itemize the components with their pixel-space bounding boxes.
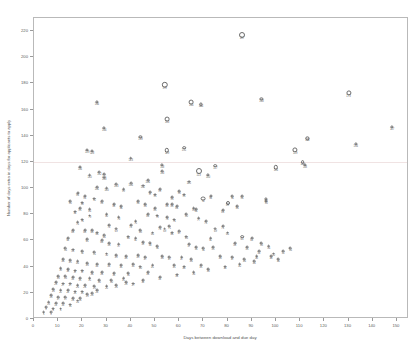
y-axis-tick [30,161,33,162]
x-axis-tick [154,318,155,321]
data-point-label: 72 [129,227,132,230]
x-axis-tick-label: 70 [200,323,205,328]
data-point-label: 8 [53,310,54,313]
data-point-label: 40 [224,268,227,271]
x-axis-tick [81,318,82,321]
data-point-label: 31 [79,280,82,283]
x-axis-tick-label: 100 [271,323,278,328]
data-point-label: 42 [108,266,111,269]
data-point-label: 26 [83,287,86,290]
data-point-label: 62 [134,240,137,243]
data-point-label: 40 [183,268,186,271]
data-point-label: 31 [88,280,91,283]
data-point-label: 94 [209,198,212,201]
data-point-label: 78 [117,219,120,222]
data-point-label: 48 [161,258,164,261]
y-axis-tick-label: 20 [23,289,28,294]
data-point-label: 58 [233,245,236,248]
data-point-label: 90 [69,203,72,206]
data-point-label: 66 [170,234,173,237]
data-point-label: 97 [149,194,152,197]
data-point-label: 99 [122,191,125,194]
x-axis-tick [275,318,276,321]
x-axis-tick [396,318,397,321]
data-point-label: 71 [168,228,171,231]
data-point-label: 66 [95,234,98,237]
data-point-label: 22 [66,292,69,295]
data-point-label: 138 [305,140,309,143]
data-point-label: 88 [170,206,173,209]
data-point-label: 36 [91,274,94,277]
data-point-label: 69 [115,231,118,234]
data-point-label: 96 [76,195,79,198]
data-point-label: 66 [226,234,229,237]
data-point-label: 68 [91,232,94,235]
data-point-label: 168 [259,101,263,104]
data-point-label: 33 [64,278,67,281]
data-point-label: 55 [245,249,248,252]
data-point-label: 166 [95,104,99,107]
data-point-label: 19 [86,296,89,299]
data-point-label: 93 [170,199,173,202]
data-point-label: 110 [206,177,210,180]
data-point-label: 14 [76,302,79,305]
y-axis-tick-label: 200 [21,54,28,59]
data-point-label: 79 [156,217,159,220]
data-point-label: 32 [158,279,161,282]
data-point-label: 8 [60,310,61,313]
x-axis-tick-label: 80 [224,323,229,328]
data-point-label: 100 [104,190,108,193]
data-point-label: 68 [71,232,74,235]
data-point-label: 57 [117,246,120,249]
data-point-label: 61 [86,241,89,244]
data-point-label: 17 [57,299,60,302]
data-point-label: 58 [149,245,152,248]
data-point-label: 179 [162,88,166,91]
data-point-label: 129 [85,152,89,155]
y-axis-tick [30,318,33,319]
data-point-label: 116 [78,169,82,172]
data-point-label: 134 [354,146,358,149]
data-point-label: 62 [66,240,69,243]
data-point-label: 5 [50,314,51,317]
data-point-label: 41 [199,267,202,270]
y-axis-tick [30,30,33,31]
data-point-label: 46 [62,261,65,264]
data-point-label: 153 [165,122,169,125]
data-point-label: 86 [175,208,178,211]
x-axis-tick-label: 140 [368,323,375,328]
y-axis-tick-label: 160 [21,106,28,111]
y-axis-tick [30,135,33,136]
y-axis-tick-label: 140 [21,132,28,137]
x-axis-tick-label: 150 [392,323,399,328]
y-axis-tick [30,239,33,240]
data-point-label: 129 [165,153,169,156]
gridline-y-120 [34,162,407,163]
x-axis-tick [130,318,131,321]
data-point-label: 112 [97,174,101,177]
data-point-label: 110 [88,177,92,180]
x-axis-tick [33,318,34,321]
y-axis-tick-label: 40 [23,263,28,268]
data-point-label: 78 [166,219,169,222]
data-point-label: 83 [221,212,224,215]
data-point-label: 76 [173,221,176,224]
data-point-label: 13 [47,304,50,307]
data-point-label: 77 [197,220,200,223]
data-point-label: 85 [192,210,195,213]
data-point-label: 52 [258,253,261,256]
data-point-label: 88 [166,206,169,209]
x-axis-tick [372,318,373,321]
data-point-label: 26 [76,287,79,290]
data-point-label: 62 [209,240,212,243]
x-axis-tick [299,318,300,321]
data-point-label: 41 [151,267,154,270]
data-point-label: 128 [90,153,94,156]
x-axis-tick-label: 0 [32,323,34,328]
data-point-label: 95 [183,196,186,199]
x-axis-tick-label: 120 [320,323,327,328]
y-axis-tick-label: 120 [21,158,28,163]
data-point-label: 92 [202,201,205,204]
data-point-label: 116 [274,170,278,173]
data-point-label: 139 [138,139,142,142]
